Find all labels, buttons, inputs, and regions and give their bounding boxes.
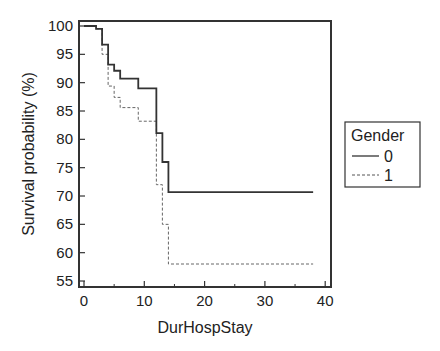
y-tick-label: 95 [56,45,73,62]
survival-curve-gender-1 [84,26,313,264]
y-tick-label: 85 [56,102,73,119]
survival-curve-gender-0 [84,26,313,192]
plot-frame [79,21,331,287]
plot-area [84,26,313,264]
x-axis-title: DurHospStay [157,319,252,336]
y-tick-label: 80 [56,130,73,147]
legend-label-1: 1 [384,167,393,184]
x-axis: 010203040 [80,281,334,309]
legend: Gender 0 1 [345,122,420,187]
y-tick-label: 100 [48,17,73,34]
legend-title: Gender [351,127,405,144]
x-tick-label: 0 [80,292,88,309]
x-tick-label: 10 [136,292,153,309]
x-tick-label: 20 [196,292,213,309]
y-tick-label: 90 [56,74,73,91]
legend-label-0: 0 [384,148,393,165]
survival-chart: 556065707580859095100 010203040 Survival… [0,0,440,351]
y-tick-label: 60 [56,244,73,261]
y-tick-label: 75 [56,159,73,176]
y-axis-title: Survival probability (%) [20,72,37,236]
y-tick-label: 65 [56,215,73,232]
x-tick-label: 40 [317,292,334,309]
y-tick-label: 55 [56,272,73,289]
x-tick-label: 30 [257,292,274,309]
y-tick-label: 70 [56,187,73,204]
